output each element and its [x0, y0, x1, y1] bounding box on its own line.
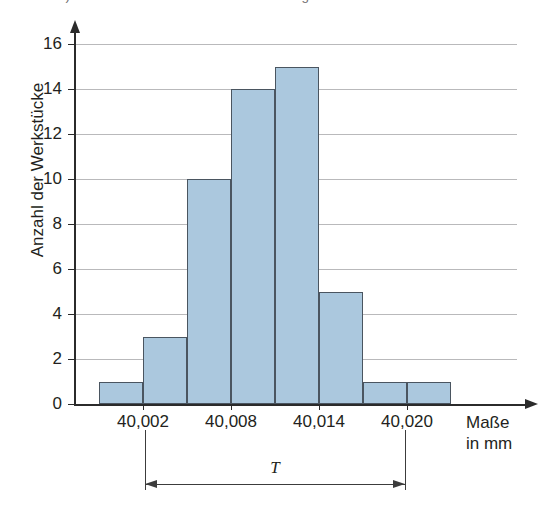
y-tick-mark — [68, 134, 75, 135]
tolerance-dimension-line — [145, 484, 405, 485]
y-tick-label: 2 — [22, 350, 62, 367]
x-tick-label: 40,014 — [279, 412, 359, 432]
histogram-bar — [231, 89, 275, 404]
y-tick-mark — [68, 269, 75, 270]
y-tick-label: 16 — [22, 35, 62, 52]
x-tick-mark — [407, 404, 408, 410]
x-axis-title-line2: in mm — [466, 434, 512, 455]
tolerance-arrow-right-icon — [393, 480, 405, 488]
y-axis-title: Anzahl der Werkstücke — [28, 60, 48, 280]
histogram-bar — [143, 337, 187, 405]
histogram-bar — [407, 382, 451, 405]
gridline — [75, 44, 517, 45]
tolerance-label: T — [255, 458, 295, 478]
y-axis-arrow-icon — [70, 20, 80, 33]
x-tick-mark — [319, 404, 320, 410]
y-tick-mark — [68, 179, 75, 180]
histogram-bar — [99, 382, 143, 405]
x-tick-mark — [143, 404, 144, 410]
y-tick-mark — [68, 314, 75, 315]
histogram-bar — [363, 382, 407, 405]
x-axis-title-line1: Maße — [466, 413, 512, 434]
x-tick-label: 40,020 — [367, 412, 447, 432]
y-tick-mark — [68, 89, 75, 90]
tolerance-extension-line-right — [405, 430, 406, 490]
y-tick-label: 0 — [22, 395, 62, 412]
y-tick-label: 4 — [22, 305, 62, 322]
y-tick-mark — [68, 224, 75, 225]
y-axis-line — [74, 30, 76, 405]
x-tick-label: 40,008 — [191, 412, 271, 432]
histogram-bar — [319, 292, 363, 405]
exercise-heading: b) Welche Informationen liefert das Hist… — [58, 0, 478, 4]
histogram-bar — [275, 67, 319, 405]
x-tick-mark — [231, 404, 232, 410]
y-tick-mark — [68, 359, 75, 360]
plot-area — [75, 44, 517, 404]
y-tick-mark — [68, 44, 75, 45]
x-axis-arrow-icon — [525, 399, 538, 409]
histogram-bar — [187, 179, 231, 404]
x-axis-title: Maße in mm — [466, 413, 512, 454]
y-tick-mark — [68, 404, 75, 405]
histogram-figure: b) Welche Informationen liefert das Hist… — [0, 0, 559, 518]
x-tick-label: 40,002 — [103, 412, 183, 432]
tolerance-arrow-left-icon — [145, 480, 157, 488]
